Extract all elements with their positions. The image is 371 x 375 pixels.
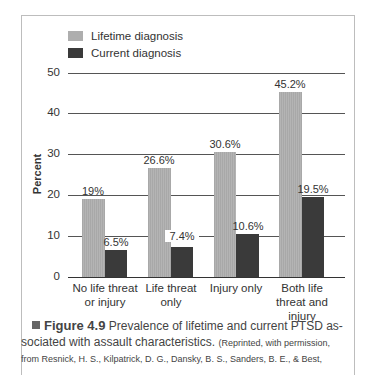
category-line: Life threat bbox=[138, 281, 204, 295]
category-label-both: Both life threat and injury bbox=[269, 281, 335, 323]
legend-item-current: Current diagnosis bbox=[68, 47, 181, 59]
bar-current-life-threat bbox=[171, 247, 194, 277]
category-label-injury: Injury only bbox=[203, 281, 269, 295]
bar-current-injury bbox=[236, 234, 259, 277]
value-label-current-4: 19.5% bbox=[293, 183, 333, 195]
y-axis-label: Percent bbox=[31, 152, 43, 196]
caption-source-1: (Reprinted, with permission, bbox=[218, 338, 330, 348]
category-label-no-threat: No life threat or injury bbox=[72, 281, 138, 309]
category-line: Injury only bbox=[203, 281, 269, 295]
category-label-life-threat: Life threat only bbox=[138, 281, 204, 309]
value-label-current-3: 10.6% bbox=[228, 220, 268, 232]
y-tick-10: 10 bbox=[40, 229, 60, 241]
legend-swatch-current bbox=[68, 48, 83, 58]
caption-square-icon bbox=[32, 321, 40, 329]
y-tick-20: 20 bbox=[40, 188, 60, 200]
legend-label-current: Current diagnosis bbox=[91, 47, 181, 59]
legend-swatch-lifetime bbox=[68, 31, 83, 41]
bar-lifetime-life-threat bbox=[148, 168, 171, 277]
category-line: No life threat bbox=[72, 281, 138, 295]
caption-text-1: Prevalence of lifetime and current PTSD … bbox=[109, 319, 343, 333]
bar-current-no-threat bbox=[105, 250, 128, 277]
category-line: threat and bbox=[269, 295, 335, 309]
value-label-current-1: 6.5% bbox=[96, 236, 136, 248]
y-tick-50: 50 bbox=[40, 66, 60, 78]
category-line: Both life bbox=[269, 281, 335, 295]
category-line: only bbox=[138, 295, 204, 309]
gridline-30 bbox=[68, 154, 345, 155]
y-tick-40: 40 bbox=[40, 106, 60, 118]
category-line: or injury bbox=[72, 295, 138, 309]
caption-line-2: sociated with assault characteristics. (… bbox=[21, 334, 368, 351]
legend-item-lifetime: Lifetime diagnosis bbox=[68, 30, 183, 42]
x-axis-baseline bbox=[68, 277, 345, 278]
caption-line-1: Figure 4.9 Prevalence of lifetime and cu… bbox=[32, 318, 368, 334]
caption-line-3: from Resnick, H. S., Kilpatrick, D. G., … bbox=[21, 351, 368, 367]
bar-lifetime-injury bbox=[214, 152, 237, 277]
caption-text-2: sociated with assault characteristics. bbox=[21, 335, 215, 349]
value-label-lifetime-4: 45.2% bbox=[270, 78, 310, 90]
y-tick-30: 30 bbox=[40, 147, 60, 159]
value-label-current-2: 7.4% bbox=[165, 230, 199, 242]
value-label-lifetime-3: 30.6% bbox=[205, 138, 245, 150]
bar-current-both bbox=[302, 197, 325, 277]
gridline-50 bbox=[68, 73, 345, 74]
figure-label: Figure 4.9 bbox=[44, 318, 105, 333]
y-tick-0: 0 bbox=[40, 270, 60, 282]
value-label-lifetime-2: 26.6% bbox=[139, 154, 179, 166]
legend-label-lifetime: Lifetime diagnosis bbox=[91, 30, 183, 42]
figure-caption: Figure 4.9 Prevalence of lifetime and cu… bbox=[33, 318, 368, 367]
value-label-lifetime-1: 19% bbox=[73, 185, 113, 197]
gridline-40 bbox=[68, 113, 345, 114]
